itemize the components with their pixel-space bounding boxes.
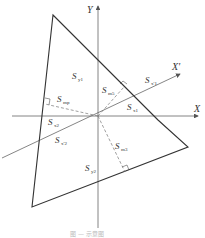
svg-text:S: S (115, 141, 120, 151)
label-sm5: S m5 (102, 85, 115, 96)
svg-text:x'2: x'2 (61, 141, 67, 146)
svg-text:m5: m5 (108, 91, 115, 96)
svg-text:x1: x1 (133, 108, 139, 113)
x-prime-axis-label: X' (171, 61, 181, 72)
svg-text:y2: y2 (91, 169, 97, 174)
svg-text:y1: y1 (78, 77, 84, 82)
label-sx2: S x2 (48, 117, 60, 128)
svg-text:m3: m3 (121, 147, 128, 152)
svg-text:S: S (145, 75, 150, 85)
perpendicular-m3 (98, 116, 125, 172)
label-smp: S mp (57, 94, 70, 105)
label-sx1: S x1 (127, 102, 139, 113)
svg-text:x'1: x'1 (151, 81, 157, 86)
svg-text:S: S (85, 163, 90, 173)
svg-text:S: S (127, 102, 132, 112)
right-angle-marker-mp (45, 98, 50, 105)
svg-text:S: S (55, 135, 60, 145)
svg-text:S: S (57, 94, 62, 104)
svg-text:S: S (72, 71, 77, 81)
label-sy2: S y2 (85, 163, 97, 174)
label-sx1-prime: S x'1 (145, 75, 157, 86)
label-sm3: S m3 (115, 141, 128, 152)
svg-text:mp: mp (63, 100, 70, 105)
label-sy1: S y1 (72, 71, 84, 82)
figure-caption: 图 — 示意图 (70, 230, 104, 238)
svg-text:x2: x2 (54, 123, 60, 128)
perpendicular-mp (45, 104, 98, 116)
label-sx2-prime: S x'2 (55, 135, 67, 146)
y-axis-label: Y (87, 4, 94, 15)
coordinate-polygon-diagram: Y X X' S y1 S mp S m5 S x'1 S x1 S x2 S … (0, 0, 205, 238)
svg-text:S: S (102, 85, 107, 95)
polygon-boundary (32, 15, 188, 207)
x-axis-label: X (193, 103, 201, 114)
svg-text:S: S (48, 117, 53, 127)
